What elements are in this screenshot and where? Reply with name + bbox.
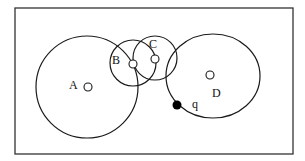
point-a: [84, 83, 92, 91]
frame: [15, 8, 293, 154]
label-b: B: [112, 53, 120, 67]
query-point-q: [173, 101, 182, 110]
label-d: D: [212, 86, 221, 100]
point-b: [129, 60, 137, 68]
label-a: A: [69, 78, 78, 92]
point-c: [151, 55, 159, 63]
label-q: q: [192, 97, 198, 111]
label-c: C: [149, 37, 157, 51]
point-d: [206, 71, 214, 79]
region-diagram: A B C D q: [0, 0, 305, 161]
